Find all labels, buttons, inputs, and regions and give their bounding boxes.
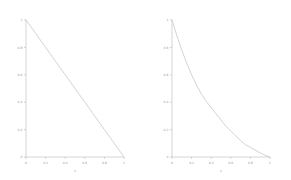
y-tick-label-right-5: 1 <box>167 18 169 22</box>
x-tick-label-left-3: 0.6 <box>82 161 87 165</box>
chart-panel-right: 0 0.2 0.4 0.6 0.8 1 0 0.2 0.4 0.6 0.8 1 … <box>146 0 291 180</box>
y-tick-label-right-2: 0.4 <box>164 100 169 104</box>
data-series-line-left <box>26 20 124 157</box>
x-axis-title-right: x <box>220 169 222 173</box>
y-tick-label-left-2: 0.4 <box>18 100 23 104</box>
x-tick-label-right-0: 0 <box>171 161 173 165</box>
x-axis-title-left: x <box>74 169 76 173</box>
data-series-line-right <box>172 20 270 157</box>
plot-area-right: 0 0.2 0.4 0.6 0.8 1 0 0.2 0.4 0.6 0.8 1 … <box>146 0 291 180</box>
y-tick-label-left-5: 1 <box>21 18 23 22</box>
x-tick-label-right-4: 0.8 <box>248 161 253 165</box>
y-tick-label-left-1: 0.2 <box>18 128 23 132</box>
x-tick-label-left-5: 1 <box>123 161 125 165</box>
x-tick-label-right-1: 0.2 <box>189 161 194 165</box>
y-tick-label-right-1: 0.2 <box>164 128 169 132</box>
chart-panel-left: 0 0.2 0.4 0.6 0.8 1 0 0.2 0.4 0.6 0.8 1 … <box>0 0 145 180</box>
plot-area-left: 0 0.2 0.4 0.6 0.8 1 0 0.2 0.4 0.6 0.8 1 … <box>0 0 145 180</box>
x-tick-label-right-2: 0.4 <box>209 161 214 165</box>
figure-canvas: 0 0.2 0.4 0.6 0.8 1 0 0.2 0.4 0.6 0.8 1 … <box>0 0 291 180</box>
y-tick-label-left-0: 0 <box>21 155 23 159</box>
y-tick-labels-right: 0 0.2 0.4 0.6 0.8 1 <box>164 18 169 159</box>
y-tick-label-right-3: 0.6 <box>164 73 169 77</box>
y-ticks-right <box>170 20 172 157</box>
x-tick-label-right-5: 1 <box>269 161 271 165</box>
axes-right <box>172 20 270 157</box>
x-tick-labels-left: 0 0.2 0.4 0.6 0.8 1 <box>25 161 125 165</box>
x-tick-label-left-2: 0.4 <box>63 161 68 165</box>
y-tick-label-right-0: 0 <box>167 155 169 159</box>
x-tick-label-left-0: 0 <box>25 161 27 165</box>
y-tick-labels-left: 0 0.2 0.4 0.6 0.8 1 <box>18 18 23 159</box>
y-tick-label-right-4: 0.8 <box>164 46 169 50</box>
y-tick-label-left-3: 0.6 <box>18 73 23 77</box>
x-tick-labels-right: 0 0.2 0.4 0.6 0.8 1 <box>171 161 271 165</box>
x-tick-label-right-3: 0.6 <box>228 161 233 165</box>
x-tick-label-left-1: 0.2 <box>43 161 48 165</box>
y-tick-label-left-4: 0.8 <box>18 46 23 50</box>
x-tick-label-left-4: 0.8 <box>102 161 107 165</box>
